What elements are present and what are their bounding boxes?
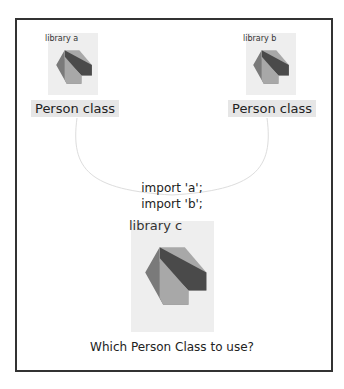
dart-logo-icon	[138, 240, 210, 312]
import-a-text: import 'a';	[0, 181, 344, 195]
dart-logo-icon	[52, 46, 94, 88]
library-a-person-class: Person class	[31, 100, 119, 117]
import-b-text: import 'b';	[0, 197, 344, 211]
library-b-person-class: Person class	[228, 100, 316, 117]
library-a-label: library a	[45, 34, 78, 43]
library-b-label: library b	[243, 34, 276, 43]
question-text: Which Person Class to use?	[0, 340, 344, 354]
dart-logo-icon	[249, 46, 291, 88]
library-c-label: library c	[129, 218, 182, 233]
